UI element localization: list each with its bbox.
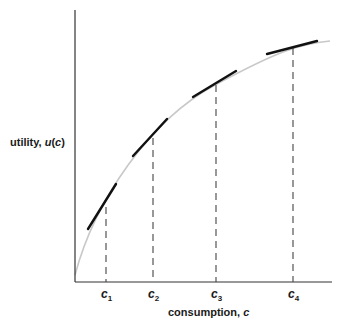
tangent-c1 xyxy=(88,184,116,229)
tangent-c3 xyxy=(193,71,236,97)
y-axis-label: utility, u(c) xyxy=(10,136,65,148)
utility-curve xyxy=(75,41,330,275)
tick-label-c2: c2 xyxy=(148,287,160,303)
x-axis-label: consumption, c xyxy=(168,306,249,318)
tangent-c2 xyxy=(133,119,167,156)
tick-label-c4: c4 xyxy=(288,287,300,303)
utility-chart: utility, u(c) c1 c2 c3 c4 consumption, c xyxy=(0,0,351,326)
tick-label-c1: c1 xyxy=(101,287,113,303)
tangent-c4 xyxy=(267,41,317,54)
tick-label-c3: c3 xyxy=(211,287,223,303)
